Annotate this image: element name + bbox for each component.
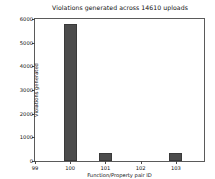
x-axis-tick: [141, 161, 142, 164]
x-axis-label: Function/Property pair ID: [35, 172, 204, 178]
y-axis-tick-label: 1000: [20, 134, 33, 140]
bar: [99, 153, 112, 161]
y-axis-tick-label: 5000: [20, 40, 33, 46]
bar-series: [35, 19, 204, 161]
y-axis-tick-label: 0: [30, 158, 33, 164]
x-axis-tick-label: 102: [136, 165, 146, 171]
bar: [169, 153, 182, 161]
x-axis-tick-label: 100: [65, 165, 75, 171]
y-axis-tick-label: 3000: [20, 87, 33, 93]
y-axis-tick-label: 2000: [20, 111, 33, 117]
x-axis-tick: [105, 161, 106, 164]
plot-area: Violations generated 0100020003000400050…: [34, 18, 205, 162]
x-axis-tick-label: 99: [32, 165, 39, 171]
y-axis-tick-label: 6000: [20, 16, 33, 22]
y-axis-tick-label: 4000: [20, 63, 33, 69]
x-axis-tick: [70, 161, 71, 164]
x-axis-tick: [35, 161, 36, 164]
chart-title: Violations generated across 14610 upload…: [34, 4, 206, 11]
figure: Violations generated across 14610 upload…: [0, 0, 215, 179]
x-axis-tick-label: 103: [171, 165, 181, 171]
x-axis-tick-label: 101: [100, 165, 110, 171]
x-axis-tick: [176, 161, 177, 164]
bar: [64, 24, 77, 161]
